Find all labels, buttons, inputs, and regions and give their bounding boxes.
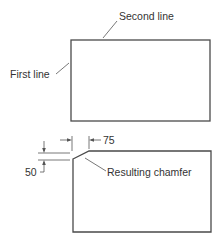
horizontal-dimension: 75 xyxy=(60,134,115,151)
dimension-50-label: 50 xyxy=(25,166,37,178)
vertical-dimension: 50 xyxy=(25,141,70,178)
top-figure: Second line First line xyxy=(10,10,210,121)
resulting-chamfer-label: Resulting chamfer xyxy=(107,166,192,178)
original-rectangle xyxy=(71,40,210,121)
second-line-leader xyxy=(103,21,117,38)
arrowhead-right-icon xyxy=(67,138,72,142)
arrowhead-down-icon xyxy=(42,148,46,153)
first-line-leader xyxy=(56,63,69,74)
first-line-label: First line xyxy=(10,68,50,80)
second-line-label: Second line xyxy=(119,10,174,22)
chamfer-diagram: Second line First line Resulting chamfer… xyxy=(0,0,221,240)
bottom-figure: Resulting chamfer 75 50 xyxy=(25,134,211,232)
chamfer-leader xyxy=(85,158,106,171)
arrowhead-up-icon xyxy=(42,160,46,165)
dimension-75-label: 75 xyxy=(103,134,115,146)
arrowhead-left-icon xyxy=(89,138,94,142)
